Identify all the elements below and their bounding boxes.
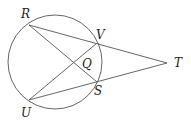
geometry-diagram: R V Q S U T xyxy=(0,0,191,124)
label-V: V xyxy=(96,28,106,42)
label-R: R xyxy=(20,7,30,21)
label-S: S xyxy=(94,84,102,98)
label-Q: Q xyxy=(82,57,92,71)
label-T: T xyxy=(174,56,183,70)
chord-RS xyxy=(29,25,97,82)
label-U: U xyxy=(21,106,32,120)
chord-UV xyxy=(29,43,97,100)
